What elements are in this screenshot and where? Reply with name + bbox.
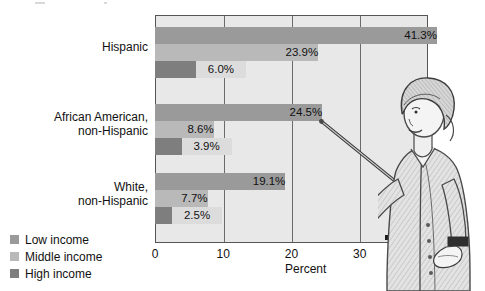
x-tick-40: 40 <box>413 247 443 261</box>
legend-item-1: Low income <box>10 231 102 248</box>
bar-value-label: 6.0% <box>196 61 246 78</box>
bar-row: 3.9% <box>155 138 428 155</box>
bar-high-2 <box>155 138 182 155</box>
bar-value-label: 41.3% <box>155 27 441 44</box>
legend-label: High income <box>25 267 92 281</box>
legend-label: Low income <box>25 233 89 247</box>
bar-row: 6.0% <box>155 61 428 78</box>
bar-high-3 <box>155 207 172 224</box>
legend-swatch-icon <box>10 252 19 261</box>
scan-artifact <box>104 2 107 4</box>
bar-value-label: 19.1% <box>155 173 289 190</box>
scan-artifact <box>35 2 45 4</box>
bar-row: 7.7% <box>155 190 428 207</box>
legend-item-3: High income <box>10 265 102 282</box>
bar-row: 19.1% <box>155 173 428 190</box>
bar-value-label: 8.6% <box>155 121 218 138</box>
chalk-tray <box>385 235 419 240</box>
legend-label: Middle income <box>25 250 102 264</box>
bar-row: 24.5% <box>155 104 428 121</box>
category-label-line: non-Hispanic <box>0 194 148 208</box>
category-label-1: Hispanic <box>0 40 148 54</box>
category-label-line: White, <box>0 180 148 194</box>
bar-row: 2.5% <box>155 207 428 224</box>
bar-row: 23.9% <box>155 44 428 61</box>
x-axis-title: Percent <box>285 262 326 276</box>
chart-legend: Low incomeMiddle incomeHigh income <box>10 231 102 282</box>
bar-value-label: 24.5% <box>155 104 326 121</box>
category-label-line: African American, <box>0 110 148 124</box>
category-label-line: Hispanic <box>0 40 148 54</box>
x-tick-20: 20 <box>277 247 307 261</box>
bar-row: 41.3% <box>155 27 428 44</box>
bar-value-label: 3.9% <box>182 138 232 155</box>
legend-swatch-icon <box>10 235 19 244</box>
x-tick-30: 30 <box>345 247 375 261</box>
legend-item-2: Middle income <box>10 248 102 265</box>
x-tick-0: 0 <box>140 247 170 261</box>
category-label-2: African American,non-Hispanic <box>0 110 148 138</box>
bar-value-label: 23.9% <box>155 44 322 61</box>
bar-value-label: 2.5% <box>172 207 222 224</box>
legend-swatch-icon <box>10 269 19 278</box>
bar-row: 8.6% <box>155 121 428 138</box>
bar-value-label: 7.7% <box>155 190 212 207</box>
category-label-3: White,non-Hispanic <box>0 180 148 208</box>
x-tick-10: 10 <box>208 247 238 261</box>
bar-high-1 <box>155 61 196 78</box>
category-label-line: non-Hispanic <box>0 124 148 138</box>
